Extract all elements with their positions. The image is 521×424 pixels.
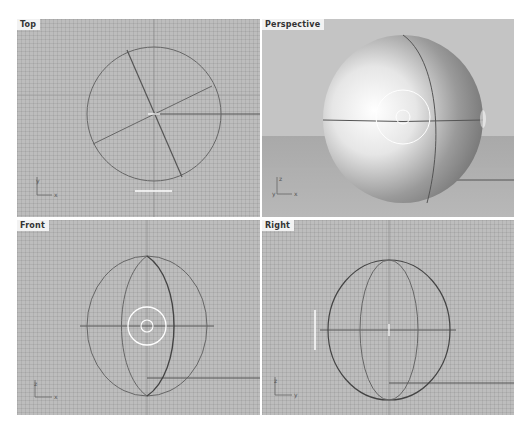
axis-label-y: y xyxy=(36,177,40,185)
axis-label-x: x xyxy=(54,393,58,400)
viewport-perspective[interactable]: Perspective xyxy=(262,19,514,217)
axis-label-x: x xyxy=(54,191,58,198)
viewport-label-top[interactable]: Top xyxy=(17,19,40,30)
axis-label-y: y xyxy=(272,190,276,198)
front-view-drawing: z x xyxy=(17,220,260,415)
axis-label-x: x xyxy=(294,190,298,197)
axis-label-z: z xyxy=(34,380,37,387)
right-view-drawing: z y xyxy=(262,220,514,415)
viewport-front[interactable]: Front z x xyxy=(17,220,260,415)
top-view-drawing: y x xyxy=(17,19,260,217)
axis-label-y: y xyxy=(294,391,298,399)
viewport-top[interactable]: Top y x xyxy=(17,19,260,217)
axis-label-z: z xyxy=(279,175,282,182)
viewport-label-front[interactable]: Front xyxy=(17,220,49,231)
viewport-label-right[interactable]: Right xyxy=(262,220,294,231)
perspective-view-drawing: z x y xyxy=(262,19,514,217)
shaded-sphere xyxy=(323,35,483,203)
viewport-right[interactable]: Right z y xyxy=(262,220,514,415)
axis-indicator-icon xyxy=(35,380,52,397)
viewport-label-perspective[interactable]: Perspective xyxy=(262,19,324,30)
axis-label-z: z xyxy=(274,377,277,384)
axis-indicator-icon xyxy=(275,377,292,395)
